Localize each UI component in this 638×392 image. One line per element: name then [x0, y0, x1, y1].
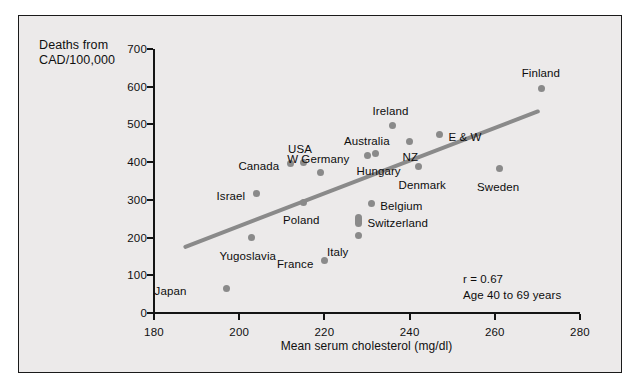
x-tick-mark	[579, 314, 581, 320]
data-point[interactable]	[389, 122, 396, 129]
x-tick-label: 220	[314, 326, 334, 338]
x-tick-mark	[494, 314, 496, 320]
data-point[interactable]	[406, 138, 413, 145]
data-point[interactable]	[321, 257, 328, 264]
x-tick-label-wrap: 180	[129, 322, 179, 340]
data-point-label: Australia	[344, 135, 390, 147]
data-point[interactable]	[368, 200, 375, 207]
x-tick-label-wrap: 200	[214, 322, 264, 340]
annotation-line: r = 0.67	[463, 271, 561, 287]
data-point[interactable]	[223, 285, 230, 292]
x-tick-label-wrap: 260	[470, 322, 520, 340]
data-point-label: Japan	[19, 285, 186, 297]
data-point[interactable]	[300, 199, 307, 206]
x-tick-mark	[153, 314, 155, 320]
data-point-label: Belgium	[380, 200, 422, 212]
data-point-label: Israel	[19, 190, 245, 202]
chart-figure: Deaths from CAD/100,000 0100200300400500…	[0, 0, 638, 392]
y-tick-mark	[147, 274, 153, 276]
y-tick-label: 600	[107, 81, 147, 93]
data-point[interactable]	[248, 234, 255, 241]
data-point[interactable]	[496, 165, 503, 172]
data-point-label: NZ	[403, 151, 419, 163]
x-axis-title: Mean serum cholesterol (mg/dl)	[153, 339, 580, 353]
y-tick-label: 100	[107, 269, 147, 281]
x-tick-mark	[323, 314, 325, 320]
y-tick-label-wrap: 700	[99, 43, 147, 57]
data-point-label: Switzerland	[367, 217, 428, 229]
data-point-label: Canada	[19, 160, 279, 172]
x-axis-line	[153, 312, 580, 314]
y-tick-label-wrap: 500	[99, 118, 147, 132]
y-tick-mark	[147, 86, 153, 88]
data-point[interactable]	[355, 232, 362, 239]
data-point-label: Ireland	[373, 105, 409, 117]
y-axis-line	[153, 49, 155, 314]
data-point-label: Poland	[283, 214, 319, 226]
y-tick-mark	[147, 237, 153, 239]
data-point-label: France	[19, 258, 313, 270]
y-tick-label-wrap: 100	[99, 269, 147, 283]
data-point-label: Finland	[522, 67, 560, 79]
y-tick-mark	[147, 123, 153, 125]
y-tick-label: 0	[107, 307, 147, 319]
data-point[interactable]	[436, 131, 443, 138]
data-point[interactable]	[372, 150, 379, 157]
data-point-label: E & W	[448, 131, 481, 143]
data-point[interactable]	[415, 163, 422, 170]
annotation-line: Age 40 to 69 years	[463, 287, 561, 303]
data-point[interactable]	[253, 190, 260, 197]
y-tick-label: 700	[107, 43, 147, 55]
x-tick-mark	[238, 314, 240, 320]
data-point-label: Hungary	[357, 165, 401, 177]
x-tick-label: 260	[485, 326, 505, 338]
y-tick-label-wrap: 600	[99, 81, 147, 95]
y-tick-label: 200	[107, 232, 147, 244]
chart-annotation: r = 0.67Age 40 to 69 years	[463, 271, 561, 303]
x-tick-label: 240	[400, 326, 420, 338]
data-point[interactable]	[538, 85, 545, 92]
data-point[interactable]	[364, 152, 371, 159]
data-point-label: Italy	[19, 246, 348, 258]
y-tick-label-wrap: 0	[99, 307, 147, 321]
data-point-label: Sweden	[477, 181, 519, 193]
x-tick-label-wrap: 240	[385, 322, 435, 340]
y-tick-label: 500	[107, 118, 147, 130]
data-point-label: Denmark	[399, 179, 446, 191]
plot-area: 0100200300400500600700 18020022024026028…	[19, 16, 621, 372]
x-tick-label-wrap: 280	[555, 322, 605, 340]
data-point[interactable]	[317, 169, 324, 176]
chart-frame: Deaths from CAD/100,000 0100200300400500…	[18, 15, 622, 373]
x-tick-label: 200	[229, 326, 249, 338]
x-tick-label: 180	[144, 326, 164, 338]
y-tick-label-wrap: 200	[99, 232, 147, 246]
x-tick-mark	[409, 314, 411, 320]
y-tick-mark	[147, 48, 153, 50]
data-point-label: W Germany	[287, 153, 349, 165]
data-point[interactable]	[355, 214, 362, 227]
x-tick-label-wrap: 220	[299, 322, 349, 340]
x-tick-label: 280	[570, 326, 590, 338]
